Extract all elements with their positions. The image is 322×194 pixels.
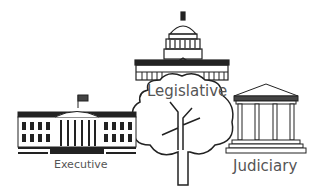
judiciary-label: Judiciary [233, 157, 297, 175]
capitol-building-icon [135, 12, 229, 80]
white-house-icon [18, 95, 136, 154]
legislative-label: Legislative [147, 82, 227, 100]
executive-label: Executive [54, 158, 108, 171]
supreme-court-icon [226, 84, 306, 153]
